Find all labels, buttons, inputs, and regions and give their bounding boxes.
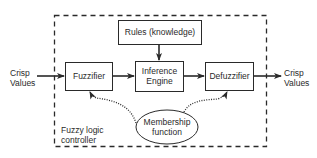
membership-label-line2: function xyxy=(136,127,198,137)
output-label-line1: Crisp xyxy=(284,68,309,78)
rules-label: Rules (knowledge) xyxy=(118,27,202,37)
inference-engine-label: Inference Engine xyxy=(135,66,184,86)
input-label-line1: Crisp xyxy=(10,68,35,78)
container-label-line1: Fuzzy logic xyxy=(61,125,104,135)
inference-label-line1: Inference xyxy=(135,66,184,76)
input-label-line2: Values xyxy=(10,78,35,88)
inference-label-line2: Engine xyxy=(135,76,184,86)
output-label: Crisp Values xyxy=(284,68,309,88)
defuzzifier-label: Defuzzifier xyxy=(205,71,254,81)
container-label-line2: controller xyxy=(61,135,104,145)
fuzzifier-label: Fuzzifier xyxy=(65,71,113,81)
output-label-line2: Values xyxy=(284,78,309,88)
input-label: Crisp Values xyxy=(10,68,35,88)
container-label: Fuzzy logic controller xyxy=(61,125,104,145)
dotted-arrow-membership-to-fuzzifier xyxy=(90,92,136,123)
dotted-arrow-membership-to-defuzzifier xyxy=(184,92,227,112)
membership-label-line1: Membership xyxy=(136,117,198,127)
membership-function-label: Membership function xyxy=(136,117,198,137)
